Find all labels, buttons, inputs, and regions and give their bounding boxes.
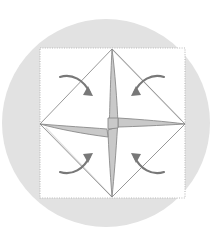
figure-root	[0, 0, 213, 246]
geometric-diagram	[0, 0, 213, 246]
pinwheel-hub	[108, 118, 118, 129]
